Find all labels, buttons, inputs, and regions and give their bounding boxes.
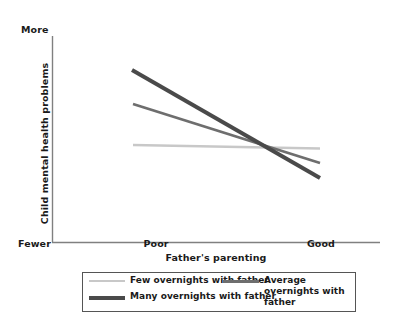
legend-swatch-few-overnights-icon [89,280,125,282]
legend-swatch-many-overnights-icon [89,296,125,300]
legend-swatch-average-overnights-icon [223,280,259,283]
chart-figure: More Fewer Child mental health problems … [0,0,407,326]
legend-item-average-overnights: Average overnights with father [223,275,353,308]
x-axis-title: Father's parenting [52,252,380,263]
legend-label-average-overnights: Average overnights with father [264,275,353,308]
series-line-few-overnights [133,145,320,149]
chart-legend: Few overnights with father Many overnigh… [82,272,356,312]
series-line-average-overnights [133,104,320,163]
x-tick-label-good: Good [298,238,344,249]
series-line-many-overnights [132,70,320,178]
x-tick-label-poor: Poor [133,238,179,249]
